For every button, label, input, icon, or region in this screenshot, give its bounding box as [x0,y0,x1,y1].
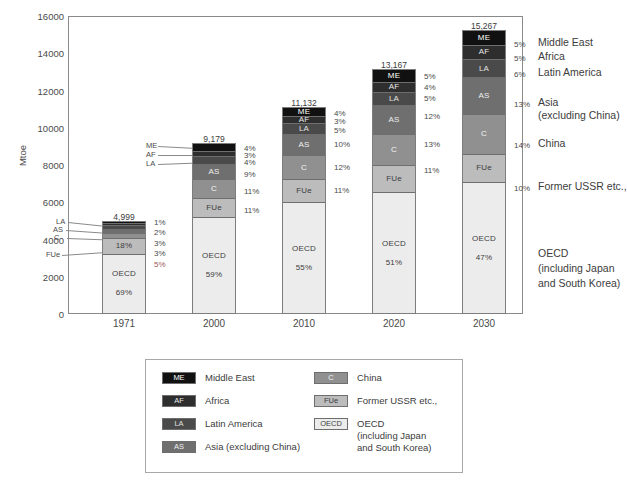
annotation-name-oecd-line3: and South Korea) [538,277,620,290]
segment-label-2000-FUe: FUe [206,204,222,212]
segment-label-2010-C: C [301,164,307,172]
legend-code-as: AS [174,443,184,451]
segment-2020-LA[interactable]: LA [373,93,415,106]
bar-2000[interactable]: AS C FUe OECD 59% [192,143,236,314]
segment-2010-C[interactable]: C [283,156,325,181]
segment-2000-AS[interactable]: AS [193,165,235,181]
segment-2020-C[interactable]: C [373,135,415,167]
y-tick-16000: 16000 [4,11,64,22]
bar-2010[interactable]: ME AF LA AS C FUe OECD 55% [282,107,326,314]
segment-2010-ME[interactable]: ME [283,108,325,117]
segment-2010-FUe[interactable]: FUe [283,180,325,203]
segment-2030-AF[interactable]: AF [463,46,505,61]
pct-2020-AF: 4% [424,83,436,92]
segment-2030-LA[interactable]: LA [463,60,505,78]
pct-2020-C: 13% [424,140,440,149]
bar-2020[interactable]: ME AF LA AS C FUe OECD 51% [372,69,416,314]
legend-item-af[interactable]: AF Africa [162,395,300,409]
annotation-name-oecd: OECD [538,247,568,260]
legend-label-af: Africa [205,395,229,407]
leader-line-1971-LA [68,222,102,227]
legend-label-me: Middle East [205,372,255,384]
segment-label-2030-OECD: OECD [472,235,496,243]
legend-item-as[interactable]: AS Asia (excluding China) [162,441,300,455]
segment-1971-OECD[interactable]: OECD 69% [103,255,145,313]
legend-code-fue: FUe [324,397,338,405]
segment-label-2020-AS: AS [388,116,399,124]
segment-2000-OECD[interactable]: OECD 59% [193,218,235,313]
segment-2000-LA[interactable] [193,157,235,164]
annotation-pct-asia: 13% [514,98,530,111]
y-tick-10000: 10000 [4,122,64,133]
segment-2000-C[interactable]: C [193,180,235,199]
segment-2010-AF[interactable]: AF [283,117,325,124]
legend-label-oecd-line3: and South Korea) [357,442,431,454]
annotation-pct-china: 14% [514,139,530,152]
segment-2020-ME[interactable]: ME [373,70,415,83]
legend-item-me[interactable]: ME Middle East [162,372,300,386]
legend-label-c: China [357,372,382,384]
x-tick-2000: 2000 [179,318,249,329]
x-tick-1971: 1971 [89,318,159,329]
pct-1971-LA: 3% [154,238,166,247]
segment-2020-OECD[interactable]: OECD 51% [373,193,415,313]
pct-1971-AF: 2% [154,228,166,237]
pct-2000-AS: 9% [244,170,256,179]
pct-1971-ME: 1% [154,217,166,226]
annotation-name-latin-america: Latin America [538,66,602,79]
segment-label-2030-ME: ME [478,34,490,42]
bar-1971[interactable]: 18% OECD 69% [102,221,146,314]
x-tick-2010: 2010 [269,318,339,329]
pct-2020-ME: 5% [424,72,436,81]
pct-2000-FUe: 11% [244,206,259,215]
segment-label-2000-C: C [211,185,217,193]
legend-label-oecd-line2: (including Japan [357,430,431,442]
legend-item-fue[interactable]: FUe Former USSR etc., [314,395,437,409]
y-tick-0: 0 [4,309,64,320]
bar-2030[interactable]: ME AF LA AS C FUe OECD 47% [462,30,506,314]
legend-code-oecd: OECD [320,420,342,428]
legend-code-me: ME [173,374,184,382]
segment-2030-C[interactable]: C [463,115,505,155]
segment-label-2010-LA: LA [299,125,309,133]
legend-code-la: LA [174,420,183,428]
segment-2020-AS[interactable]: AS [373,106,415,135]
pct-1971-AS: 3% [154,249,166,258]
legend-item-oecd[interactable]: OECD OECD (including Japan and South Kor… [314,418,437,454]
segment-2030-ME[interactable]: ME [463,31,505,46]
legend-item-la[interactable]: LA Latin America [162,418,300,432]
segment-2030-AS[interactable]: AS [463,78,505,115]
legend-item-c[interactable]: C China [314,372,437,386]
segment-label-2000-OECD: OECD [202,252,226,260]
segment-2010-AS[interactable]: AS [283,135,325,156]
annotation-name-asia-line2: (excluding China) [538,109,620,122]
segment-2030-OECD[interactable]: OECD 47% [463,183,505,313]
segment-label-2010-ME: ME [298,108,310,116]
segment-2030-FUe[interactable]: FUe [463,155,505,184]
segment-2000-ME[interactable] [193,144,235,151]
segment-2010-LA[interactable]: LA [283,124,325,135]
annotation-name-africa: Africa [538,50,565,63]
segment-label-2030-AS: AS [478,92,489,100]
leader-label-2000-AF: AF [146,150,156,159]
segment-label-2030-LA: LA [479,65,489,73]
segment-label-1971-OECD: OECD [112,270,136,278]
segment-2020-AF[interactable]: AF [373,83,415,93]
pct-2020-LA: 5% [424,94,436,103]
pct-2010-LA: 5% [334,125,346,134]
legend-swatch-af: AF [162,395,196,407]
annotation-pct-middle-east: 5% [514,38,526,51]
y-tick-12000: 12000 [4,85,64,96]
segment-2000-FUe[interactable]: FUe [193,199,235,218]
legend-label-oecd: OECD (including Japan and South Korea) [357,418,431,454]
segment-pct-2000-OECD: 59% [206,271,223,279]
segment-2020-FUe[interactable]: FUe [373,166,415,193]
segment-label-2010-FUe: FUe [296,187,312,195]
segment-2010-OECD[interactable]: OECD 55% [283,203,325,313]
leader-label-1971-FUe: FUe [46,250,60,259]
pct-2010-C: 12% [334,163,350,172]
pct-2020-AS: 12% [424,112,440,121]
segment-1971-FUe[interactable]: 18% [103,239,145,255]
segment-label-2000-AS: AS [208,168,219,176]
